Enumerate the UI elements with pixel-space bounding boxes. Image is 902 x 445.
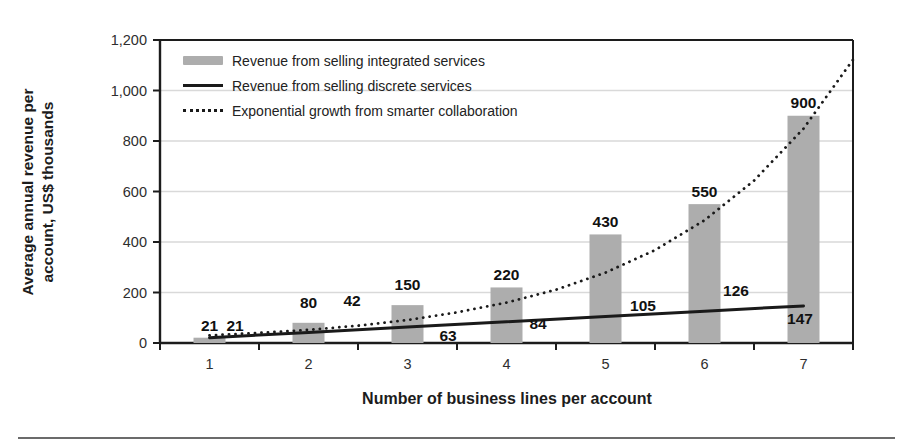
bar-category-5 (590, 234, 622, 343)
legend-item-integrated-services: Revenue from selling integrated services (183, 50, 518, 71)
bar-value-label-220: 220 (494, 266, 520, 283)
legend-item-exponential-growth: Exponential growth from smarter collabor… (183, 100, 518, 121)
legend-label-integrated-services: Revenue from selling integrated services (232, 53, 485, 69)
x-tick-label-5: 5 (601, 356, 609, 372)
bar-value-label-150: 150 (395, 276, 421, 293)
y-tick-label-200: 200 (123, 285, 147, 301)
dotted-line-swatch-icon (183, 109, 223, 112)
x-axis-title: Number of business lines per account (160, 390, 854, 408)
bar-category-3 (392, 305, 424, 343)
legend-label-discrete-services: Revenue from selling discrete services (232, 78, 472, 94)
x-tick-label-3: 3 (403, 356, 411, 372)
x-tick-label-6: 6 (700, 356, 708, 372)
line-value-label-105: 105 (630, 297, 656, 314)
line-value-label-84: 84 (529, 315, 547, 332)
solid-line-swatch-icon (183, 84, 223, 87)
x-tick-label-4: 4 (502, 356, 510, 372)
bar-category-4 (491, 287, 523, 343)
bar-value-label-80: 80 (300, 294, 317, 311)
y-tick-label-1200: 1,200 (111, 32, 147, 48)
y-tick-label-400: 400 (123, 234, 147, 250)
line-value-label-42: 42 (343, 292, 360, 309)
y-tick-label-600: 600 (123, 184, 147, 200)
bar-swatch-icon (183, 56, 223, 65)
y-tick-label-0: 0 (139, 335, 147, 351)
legend-label-exponential-growth: Exponential growth from smarter collabor… (232, 103, 518, 119)
y-tick-label-1000: 1,000 (111, 83, 147, 99)
chart-figure: 02004006008001,0001,20012345672180150220… (0, 0, 902, 445)
line-value-label-21: 21 (226, 317, 244, 334)
bar-category-7 (788, 116, 820, 343)
y-axis-title: Average annual revenue per account, US$ … (18, 88, 58, 295)
x-tick-label-7: 7 (799, 356, 807, 372)
y-axis-title-line1: Average annual revenue per (18, 88, 38, 295)
line-value-label-63: 63 (439, 327, 457, 344)
x-tick-label-2: 2 (304, 356, 312, 372)
bar-value-label-550: 550 (692, 183, 718, 200)
bar-value-label-430: 430 (593, 213, 619, 230)
line-value-label-147: 147 (787, 310, 813, 327)
y-axis-title-line2: account, US$ thousands (38, 88, 58, 295)
line-value-label-126: 126 (723, 282, 749, 299)
bar-value-label-900: 900 (791, 94, 817, 111)
legend-item-discrete-services: Revenue from selling discrete services (183, 75, 518, 96)
bottom-rule-divider (18, 437, 895, 439)
legend: Revenue from selling integrated services… (183, 50, 518, 121)
y-tick-label-800: 800 (123, 133, 147, 149)
x-tick-label-1: 1 (205, 356, 213, 372)
bar-category-6 (689, 204, 721, 343)
bar-value-label-21: 21 (201, 317, 219, 334)
